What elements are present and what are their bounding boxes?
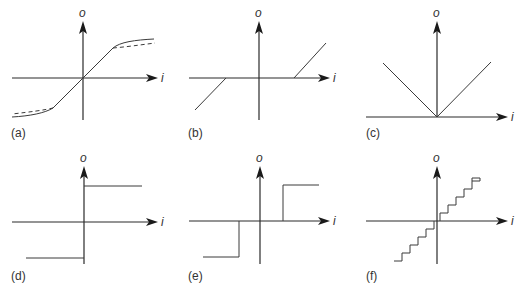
input-axis-label: i [161,71,164,85]
panel-e: o i (e) [188,151,336,283]
panel-a: o i (a) [11,6,164,140]
output-axis-label: o [80,151,87,165]
dead-zone-left-line [195,78,226,110]
panel-d: o i (d) [11,151,164,283]
output-axis-label: o [255,6,262,20]
quantizer-lower-staircase [394,221,434,261]
dead-zone-right-line [294,43,326,78]
panel-label-b: (b) [188,126,203,140]
saturation-dashed-upper [113,43,155,48]
abs-right-line [437,62,491,117]
input-axis-label: i [161,215,164,229]
nonlinearity-figure: o i (a) o i (b) o i (c) o i [0,0,522,290]
abs-left-line [383,63,437,117]
panel-c: o i (c) [366,6,514,140]
panel-label-c: (c) [366,126,380,140]
input-axis-label: i [511,214,514,228]
panel-label-e: (e) [188,269,203,283]
relay-deadzone-low-step [203,221,239,257]
input-axis-label: i [333,71,336,85]
output-axis-label: o [256,151,263,165]
panel-label-d: (d) [11,269,26,283]
quantizer-upper-staircase [440,178,480,221]
panel-label-a: (a) [11,126,26,140]
panel-f: o i (f) [366,151,514,283]
panel-label-f: (f) [366,269,377,283]
output-axis-label: o [433,6,440,20]
input-axis-label: i [511,110,514,124]
input-axis-label: i [333,214,336,228]
output-axis-label: o [79,6,86,20]
panel-b: o i (b) [188,6,336,140]
output-axis-label: o [433,151,440,165]
relay-deadzone-high-step [283,185,319,221]
